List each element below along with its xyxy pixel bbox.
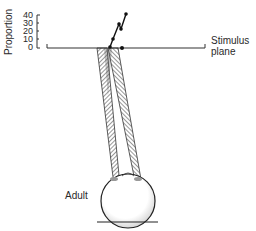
y-axis-label: Proportion: [3, 9, 14, 55]
stimulus-plane-label-line2: plane: [211, 46, 235, 57]
visual-beams: [97, 48, 142, 186]
adult-label: Adult: [65, 190, 88, 201]
y-axis: [37, 15, 40, 48]
proportion-line: [108, 12, 128, 50]
stimulus-plane-label-line1: Stimulus: [211, 35, 249, 46]
eye-ball: [101, 173, 155, 228]
y-tick-0: 0: [17, 43, 33, 52]
stimulus-plane-line: [47, 44, 205, 48]
